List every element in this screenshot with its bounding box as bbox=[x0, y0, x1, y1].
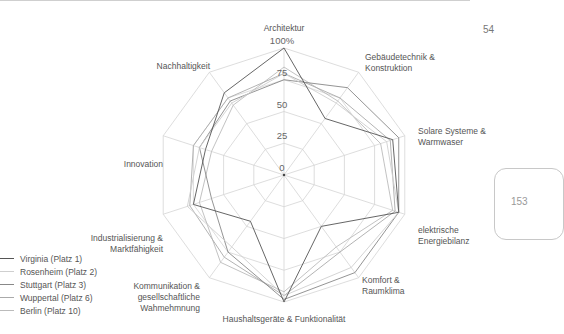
tick-label: 50 bbox=[277, 99, 288, 110]
legend-swatch bbox=[0, 258, 14, 259]
legend-item: Wuppertal (Platz 6) bbox=[0, 291, 97, 304]
axis-label: Konstruktion bbox=[365, 63, 413, 73]
axis-label: elektrische bbox=[418, 225, 459, 235]
axis-label: Industrialisierung & bbox=[91, 233, 164, 243]
tick-label: 0 bbox=[279, 162, 284, 173]
axis-label: Nachhaltigkeit bbox=[157, 61, 211, 71]
axis-label: Architektur bbox=[264, 23, 305, 33]
axis-label: Komfort & bbox=[362, 275, 400, 285]
axis-label: Wahmehmnung bbox=[140, 303, 200, 313]
axis-label: Haushaltsgeräte & Funktionalität bbox=[223, 314, 346, 324]
tick-label: 100% bbox=[270, 35, 295, 46]
legend-swatch bbox=[0, 297, 14, 298]
axis-label: Innovation bbox=[124, 159, 163, 169]
center-dot bbox=[283, 174, 285, 176]
axis-label: Energiebilanz bbox=[418, 236, 470, 246]
series-line bbox=[199, 67, 392, 292]
legend: Virginia (Platz 1) Rosenheim (Platz 2) S… bbox=[0, 252, 97, 317]
legend-swatch bbox=[0, 284, 14, 285]
legend-item: Virginia (Platz 1) bbox=[0, 252, 97, 265]
legend-swatch bbox=[0, 271, 14, 272]
tick-label: 25 bbox=[277, 130, 288, 141]
axis-spoke bbox=[209, 72, 284, 175]
axis-label: Warmwaser bbox=[418, 137, 463, 147]
axis-label: Kommunikation & bbox=[133, 281, 200, 291]
axis-label: Raumklima bbox=[362, 286, 405, 296]
legend-item: Berlin (Platz 10) bbox=[0, 304, 97, 317]
axis-label: Gebäudetechnik & bbox=[365, 52, 435, 62]
legend-item: Rosenheim (Platz 2) bbox=[0, 265, 97, 278]
tick-label: 75 bbox=[277, 67, 288, 78]
axis-label: Solare Systeme & bbox=[418, 126, 486, 136]
axis-label: gesellschaftliche bbox=[138, 292, 201, 302]
legend-item: Stuttgart (Platz 3) bbox=[0, 278, 97, 291]
axis-label: Marktfähigkeit bbox=[110, 244, 164, 254]
legend-swatch bbox=[0, 310, 14, 311]
